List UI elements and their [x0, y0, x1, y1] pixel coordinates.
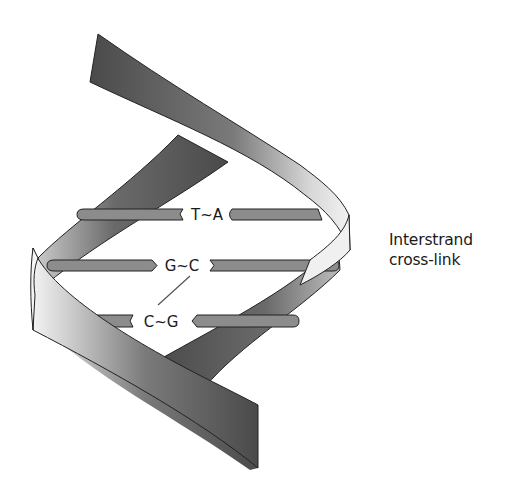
annotation-line-2: cross-link	[389, 250, 473, 270]
base-pair-2: G~C	[47, 257, 339, 275]
base-pair-label-3: C~G	[144, 313, 179, 331]
annotation-line-1: Interstrand	[389, 230, 473, 250]
base-pair-label-1: T~A	[190, 206, 224, 224]
base-pair-label-2: G~C	[165, 257, 200, 275]
cross-link-line	[158, 276, 190, 305]
interstrand-cross-link-label: Interstrand cross-link	[389, 230, 473, 270]
